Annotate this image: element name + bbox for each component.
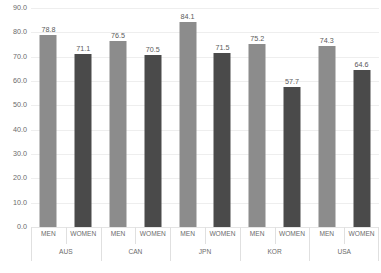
y-axis-tick-label: 60.0 [0,77,27,85]
bar-jpn-men[interactable] [179,22,196,227]
x-axis-series-label: MEN [170,230,205,238]
bar-value-label: 74.3 [320,37,334,45]
y-axis-tick-label: 30.0 [0,150,27,158]
bar-value-label: 64.6 [355,61,369,69]
x-axis-series-separator [135,227,136,244]
x-axis-group-separator [31,227,32,261]
x-axis-group-label: KOR [240,248,310,256]
bar-can-men[interactable] [109,41,126,227]
bar-kor-women[interactable] [283,87,300,227]
y-axis-tick-label: 40.0 [0,126,27,134]
bar-slot: 71.1 [66,8,101,227]
x-axis-series-label: MEN [240,230,275,238]
y-axis-tick-label: 10.0 [0,199,27,207]
bar-kor-men[interactable] [249,44,266,227]
bar-value-label: 71.1 [76,45,90,53]
y-axis-tick-label: 90.0 [0,4,27,12]
bar-slot: 78.8 [31,8,66,227]
bar-aus-men[interactable] [40,35,57,227]
bar-value-label: 78.8 [41,26,55,34]
x-axis-series-label: WOMEN [344,230,379,238]
bar-value-label: 70.5 [146,46,160,54]
bar-slot: 57.7 [275,8,310,227]
bar-group-container: 78.871.176.570.584.171.575.257.774.364.6 [31,8,379,227]
x-axis-group-label: USA [309,248,379,256]
y-axis-tick-label: 70.0 [0,53,27,61]
x-axis-series-separator [275,227,276,244]
bar-slot: 70.5 [135,8,170,227]
bar-chart: 90.080.070.060.050.040.030.020.010.00.0 … [0,0,381,273]
bar-slot: 76.5 [101,8,136,227]
bar-slot: 75.2 [240,8,275,227]
bar-usa-men[interactable] [318,46,335,227]
bar-slot: 71.5 [205,8,240,227]
plot-area: 78.871.176.570.584.171.575.257.774.364.6 [31,8,379,227]
y-axis-tick-label: 0.0 [0,223,27,231]
y-axis-tick-label: 50.0 [0,101,27,109]
x-axis-series-label: WOMEN [66,230,101,238]
y-axis-tick-label: 80.0 [0,28,27,36]
x-axis-group-separator [101,227,102,261]
y-axis-tick-label: 20.0 [0,174,27,182]
x-axis-group-label: CAN [101,248,171,256]
x-axis-series-label: MEN [31,230,66,238]
x-axis-group-separator [378,227,379,261]
bar-value-label: 71.5 [215,44,229,52]
bar-usa-women[interactable] [353,70,370,227]
x-axis-group-separator [309,227,310,261]
y-axis: 90.080.070.060.050.040.030.020.010.00.0 [0,0,30,273]
bar-aus-women[interactable] [75,54,92,227]
bar-slot: 84.1 [170,8,205,227]
x-axis-series-label: MEN [309,230,344,238]
x-axis-series-separator [344,227,345,244]
bar-value-label: 75.2 [250,35,264,43]
x-axis-series-separator [66,227,67,244]
bar-value-label: 57.7 [285,78,299,86]
bar-value-label: 84.1 [181,13,195,21]
x-axis-group-separator [240,227,241,261]
x-axis-series-label: MEN [101,230,136,238]
x-axis: MENWOMENMENWOMENMENWOMENMENWOMENMENWOMEN… [31,227,379,273]
bar-jpn-women[interactable] [214,53,231,227]
x-axis-series-label: WOMEN [135,230,170,238]
x-axis-series-separator [205,227,206,244]
bar-can-women[interactable] [144,55,161,227]
x-axis-group-separator [170,227,171,261]
x-axis-group-label: JPN [170,248,240,256]
x-axis-group-label: AUS [31,248,101,256]
x-axis-series-label: WOMEN [205,230,240,238]
bar-value-label: 76.5 [111,32,125,40]
bar-slot: 74.3 [309,8,344,227]
bar-slot: 64.6 [344,8,379,227]
x-axis-series-label: WOMEN [275,230,310,238]
